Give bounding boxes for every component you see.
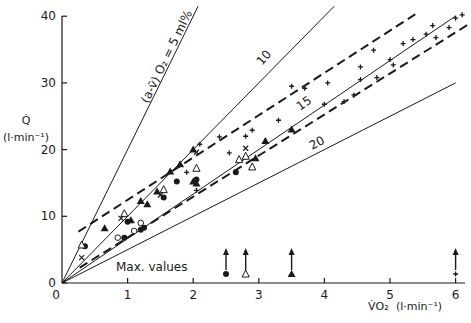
filled-triangle-marker [288,270,296,277]
plus-marker [325,80,330,85]
y-ticks [62,16,67,283]
iso-5-label: (a-v̄) O₂ = 5 ml% [138,8,195,105]
plus-marker [197,142,202,147]
x-tick-label: 1 [124,288,132,302]
max-value-markers [223,248,459,277]
y-axis-title: Q̇ (l·min⁻¹) [3,114,49,144]
open-triangle-marker [160,186,167,193]
filled-circle-marker [223,271,229,277]
plus-marker [194,188,199,193]
x-axis-symbol: V̇O₂ [368,300,389,313]
arrow-up-icon [223,248,229,255]
plus-marker [371,48,376,53]
open-triangle-marker [242,152,249,159]
filled-circle-marker [121,235,127,241]
iso-line-20 [62,83,456,283]
x-tick-label: 6 [452,288,460,302]
filled-triangle-marker [176,160,184,167]
open-triangle-marker [249,163,256,170]
filled-circle-marker [233,169,239,175]
y-axis-symbol: Q̇ [22,114,31,127]
filled-triangle-marker [101,224,109,231]
cross-marker [243,146,248,151]
iso-10-label: 10 [254,47,275,68]
iso-15-label: 15 [294,93,315,113]
open-triangle-marker [193,164,200,171]
x-tick-label: 2 [189,288,197,302]
cross-marker [158,192,163,197]
filled-circle-marker [174,179,180,185]
x-ticks [128,278,456,283]
x-axis-unit: (l·min⁻¹) [396,300,442,313]
plus-marker [430,23,435,28]
x-tick-label: 3 [255,288,263,302]
plus-marker [289,84,294,89]
y-tick-label: 10 [41,209,56,223]
plus-marker [250,128,255,133]
y-tick-label: 40 [41,9,56,23]
plus-marker [453,16,458,21]
open-circle-marker [131,228,137,234]
arrow-up-icon [289,248,295,255]
cardiac-output-vs-oxygen-uptake-chart: 010203040 0123456 Q̇ (l·min⁻¹) V̇O₂ (l·m… [0,0,471,323]
plus-marker [276,118,281,123]
arrow-up-icon [453,248,459,255]
plus-marker [374,75,379,80]
plus-marker [424,32,429,37]
plus-marker [453,272,458,277]
plus-marker [401,41,406,46]
y-axis-unit: (l·min⁻¹) [3,131,49,144]
max-values-label: Max. values [116,260,187,274]
plus-marker [351,92,356,97]
plus-marker [227,150,232,155]
filled-triangle-marker [261,137,269,144]
y-tick-label: 30 [41,76,56,90]
plus-marker [433,35,438,40]
y-tick-labels: 010203040 [41,9,56,290]
x-tick-label: 0 [52,288,60,302]
x-tick-label: 4 [321,288,329,302]
open-triangle-marker [242,270,249,277]
x-axis-title: V̇O₂ (l·min⁻¹) [368,300,442,313]
plus-marker [447,25,452,30]
y-tick-label: 20 [41,143,56,157]
plus-marker [460,12,465,17]
open-circle-marker [115,235,121,241]
open-triangle-marker [121,210,128,217]
band-upper [78,12,419,232]
plus-marker [410,37,415,42]
cross-marker [79,255,84,260]
arrow-up-icon [243,248,249,255]
plus-marker [243,134,248,139]
open-circle-marker [138,220,144,226]
plus-marker [391,62,396,67]
plus-marker [358,64,363,69]
plus-marker [184,170,189,175]
